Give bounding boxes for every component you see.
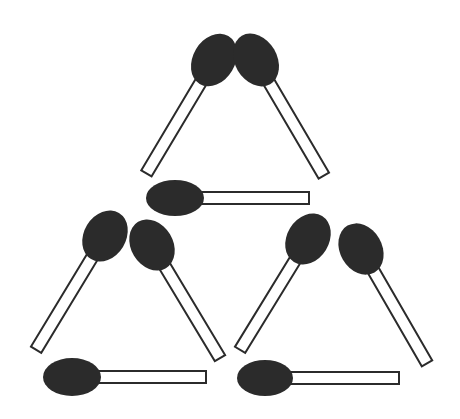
matches-group <box>18 25 445 396</box>
matchstick[interactable] <box>329 215 445 374</box>
match-stick <box>98 371 206 383</box>
match-head <box>329 215 392 283</box>
match-stick <box>159 262 225 361</box>
match-stick <box>368 267 432 367</box>
matchstick-canvas <box>0 0 460 419</box>
matchstick[interactable] <box>222 205 340 361</box>
matchstick[interactable] <box>128 25 246 184</box>
match-stick <box>141 78 206 176</box>
match-stick <box>290 372 399 384</box>
matchstick[interactable] <box>120 211 238 369</box>
match-stick <box>235 256 301 353</box>
match-stick <box>201 192 309 204</box>
match-stick <box>263 79 329 179</box>
matchstick[interactable] <box>224 25 342 186</box>
match-head <box>43 358 101 396</box>
match-stick <box>31 253 98 352</box>
matchstick[interactable] <box>146 180 309 216</box>
match-head <box>146 180 204 216</box>
matchstick[interactable] <box>237 360 399 396</box>
matchstick[interactable] <box>18 202 137 361</box>
matchstick[interactable] <box>43 358 206 396</box>
match-head <box>237 360 293 396</box>
